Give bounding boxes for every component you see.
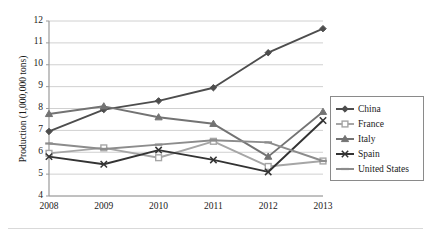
legend-swatch-dash-icon [335,163,355,175]
legend-item-spain[interactable]: Spain [335,146,421,161]
data-point-marker [265,164,271,170]
data-point-marker [319,108,326,114]
data-point-marker [155,98,161,104]
series-line-china [49,29,323,132]
legend-swatch-diamond-icon [335,103,355,115]
legend-item-china[interactable]: China [335,101,421,116]
data-point-marker [342,105,348,111]
legend-label: Italy [358,134,375,144]
data-point-marker [342,121,348,127]
data-point-marker [320,25,326,31]
data-point-marker [320,117,326,123]
legend-label: United States [358,164,409,174]
corner-watermark [412,6,413,15]
footer-divider [8,228,423,229]
legend-swatch-square-icon [335,118,355,130]
legend-item-italy[interactable]: Italy [335,131,421,146]
data-point-marker [156,155,162,161]
legend-item-france[interactable]: France [335,116,421,131]
legend-swatch-triangle-icon [335,133,355,145]
legend-label: Spain [358,149,380,159]
legend-item-united-states[interactable]: United States [335,161,421,176]
chart-legend: ChinaFranceItalySpainUnited States [330,96,424,181]
legend-swatch-cross-icon [335,148,355,160]
line-chart: Production (1,000,000 tons) 121110987654… [0,0,431,236]
data-point-marker [46,128,52,134]
legend-label: France [358,119,384,129]
legend-label: China [358,104,381,114]
